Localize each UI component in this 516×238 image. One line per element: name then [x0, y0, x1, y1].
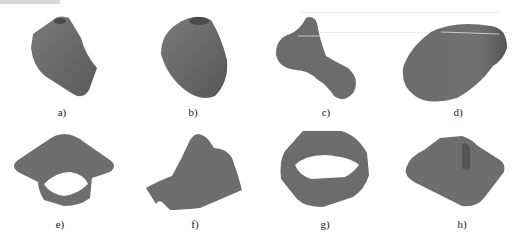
figure-panel-c: [270, 12, 370, 102]
shape-curvy-surface-icon: [270, 12, 370, 102]
bleed-through-text: [0, 0, 60, 4]
figure-panel-g: [275, 125, 375, 215]
figure-panel-e: [8, 130, 118, 210]
panel-label-d: d): [443, 106, 473, 118]
figure-panel-d: [395, 12, 510, 104]
shape-freeform-surface-icon: [140, 130, 250, 210]
panel-label-b: b): [178, 106, 208, 118]
panel-label-a: a): [47, 106, 77, 118]
figure-panel-h: [400, 130, 510, 215]
panel-label-f: f): [180, 218, 210, 230]
shape-large-block-icon: [395, 12, 510, 104]
figure-panel-f: [140, 130, 250, 210]
shape-faceted-block-icon: [25, 10, 105, 105]
panel-label-h: h): [447, 218, 477, 230]
shape-hexagonal-ring-icon: [275, 125, 375, 215]
shape-rounded-block-icon: [155, 10, 235, 105]
panel-label-e: e): [45, 218, 75, 230]
shape-plate-with-boss-icon: [400, 130, 510, 215]
figure-panel-a: [25, 10, 105, 105]
shape-square-funnel-icon: [8, 130, 118, 210]
figure-panel-b: [155, 10, 235, 105]
panel-label-c: c): [311, 106, 341, 118]
panel-label-g: g): [310, 218, 340, 230]
